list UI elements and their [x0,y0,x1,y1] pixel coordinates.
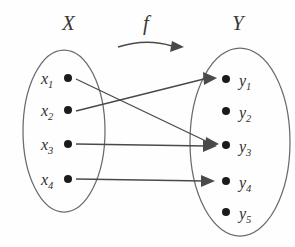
domain-element-group: x1x2x3x4 [40,70,72,191]
element-subscript-x1: 1 [48,79,53,90]
element-dot-x4 [64,175,72,183]
mapping-arrowhead-icon-x2-to-y1 [203,72,217,85]
element-subscript-x2: 2 [48,111,54,122]
element-dot-x2 [64,106,72,114]
element-dot-y4 [222,177,230,185]
element-label-x3: x3 [40,136,53,156]
element-dot-x1 [64,74,72,82]
element-subscript-x4: 4 [48,180,54,191]
codomain-element-group: y1y2y3y4y5 [222,72,252,225]
element-label-y4: y4 [237,174,252,194]
element-subscript-x3: 3 [47,145,53,156]
element-label-x1: x1 [40,70,53,90]
element-label-x2: x2 [40,102,54,122]
mapping-line-x3-to-y3 [76,144,207,146]
function-arrow-curve [118,42,172,47]
element-subscript-y4: 4 [246,183,252,194]
element-subscript-y2: 2 [246,113,252,124]
element-subscript-y3: 3 [245,147,251,158]
codomain-set-label: Y [232,11,246,35]
element-dot-y5 [222,208,230,216]
element-label-x4: x4 [40,171,54,191]
domain-set-label: X [61,11,76,35]
mapping-line-x2-to-y1 [76,78,208,111]
element-label-y1: y1 [237,72,251,92]
mapping-line-x1-to-y3 [76,79,210,143]
function-label: f [143,11,152,35]
element-subscript-y5: 5 [246,214,251,225]
element-dot-y1 [222,75,230,83]
element-label-y2: y2 [237,104,252,124]
element-label-y5: y5 [237,205,251,225]
element-dot-y2 [222,107,230,115]
element-label-y3: y3 [237,138,251,158]
element-dot-x3 [64,140,72,148]
mapping-line-x4-to-y4 [76,179,205,181]
mapping-arrowhead-icon-x4-to-y4 [201,175,215,187]
function-arrowhead-icon [170,41,184,52]
element-subscript-y1: 1 [246,81,251,92]
function-mapping-diagram: X Y f x1x2x3x4 y1y2y3y4y5 [0,0,295,247]
mapping-arrow-group [76,72,219,187]
element-dot-y3 [222,141,230,149]
domain-set-ellipse [23,50,105,212]
